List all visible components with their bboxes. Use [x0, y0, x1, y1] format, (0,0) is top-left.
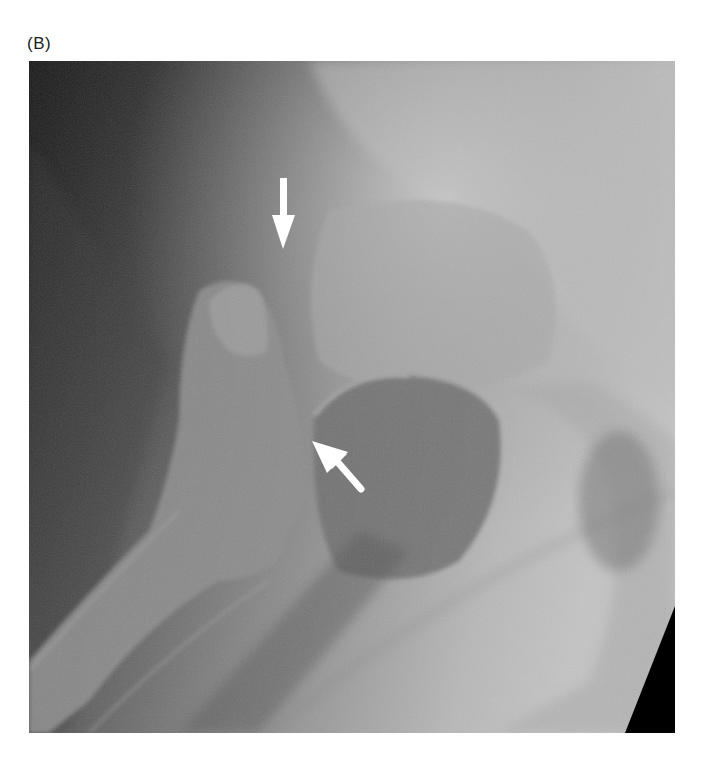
panel-label: (B) — [27, 34, 51, 54]
hip-xray-image — [29, 61, 675, 733]
